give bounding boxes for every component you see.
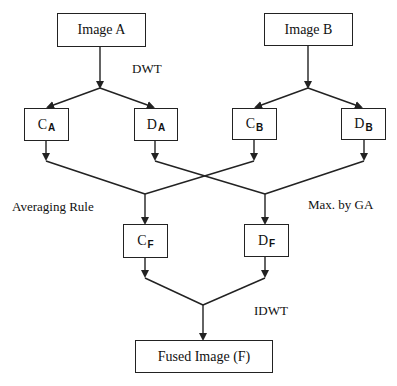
node-image-a: Image A: [57, 13, 146, 47]
node-da-main: D: [147, 117, 157, 133]
label-dwt: DWT: [132, 61, 162, 77]
node-cf: CF: [123, 224, 168, 258]
node-image-a-label: Image A: [78, 22, 126, 38]
node-cb-sub: B: [256, 122, 263, 133]
node-df: DF: [244, 224, 289, 257]
label-averaging-rule: Averaging Rule: [12, 199, 94, 215]
node-fused-image: Fused Image (F): [135, 340, 273, 373]
node-cb-main: C: [246, 116, 255, 132]
node-image-b: Image B: [264, 13, 353, 46]
node-db-main: D: [354, 116, 364, 132]
node-db: DB: [341, 108, 386, 140]
node-image-b-label: Image B: [285, 22, 333, 38]
node-ca-sub: A: [48, 122, 55, 133]
fusion-diagram: Image A Image B CA DA CB DB CF DF Fused …: [0, 0, 397, 386]
node-df-sub: F: [269, 238, 275, 249]
node-db-sub: B: [365, 122, 372, 133]
node-da-sub: A: [158, 122, 165, 133]
node-cf-main: C: [137, 233, 146, 249]
node-cb: CB: [232, 108, 277, 140]
label-idwt: IDWT: [254, 303, 288, 319]
connector-lines: [0, 0, 397, 386]
label-max-by-ga: Max. by GA: [308, 197, 373, 213]
node-cf-sub: F: [148, 239, 154, 250]
node-ca-main: C: [38, 117, 47, 133]
node-ca: CA: [24, 108, 69, 141]
node-df-main: D: [258, 233, 268, 249]
node-fused-image-label: Fused Image (F): [158, 349, 251, 365]
node-da: DA: [134, 108, 178, 141]
